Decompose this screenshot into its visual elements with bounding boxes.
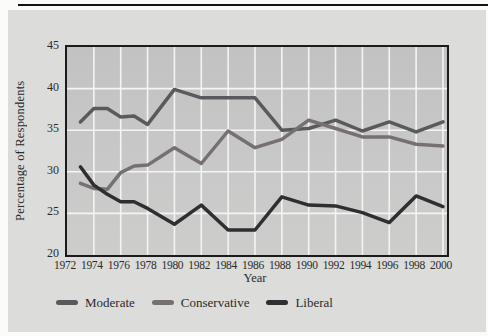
x-tick-label: 2000 xyxy=(422,258,460,272)
conservative-line-swatch xyxy=(152,300,174,305)
y-tick-label: 40 xyxy=(31,79,59,95)
legend-label-conservative: Conservative xyxy=(181,295,250,310)
x-axis-title: Year xyxy=(65,271,445,286)
y-tick-label: 25 xyxy=(31,203,59,219)
legend-label-liberal: Liberal xyxy=(295,295,333,310)
legend-label-moderate: Moderate xyxy=(85,295,135,310)
figure: Percentage of Respondents 20253035404519… xyxy=(0,0,488,336)
plot-area xyxy=(65,45,449,257)
figure-top-rule xyxy=(18,4,488,6)
y-tick-label: 30 xyxy=(31,162,59,178)
legend-item-moderate: Moderate xyxy=(56,295,135,310)
y-tick-label: 35 xyxy=(31,120,59,136)
y-tick-label: 45 xyxy=(31,37,59,53)
liberal-line-swatch xyxy=(266,300,288,305)
legend: Moderate Conservative Liberal xyxy=(56,295,333,310)
line-chart xyxy=(67,47,447,255)
legend-item-conservative: Conservative xyxy=(152,295,250,310)
moderate-line-swatch xyxy=(56,300,78,305)
y-axis-title: Percentage of Respondents xyxy=(12,45,28,257)
legend-item-liberal: Liberal xyxy=(266,295,333,310)
